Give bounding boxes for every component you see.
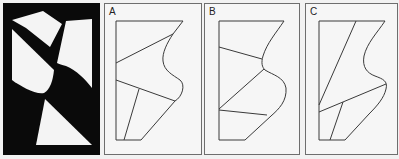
option-b-drawing <box>205 4 301 156</box>
option-a-panel[interactable]: A <box>104 3 202 155</box>
silhouette-shapes <box>3 3 100 155</box>
option-a-drawing <box>105 4 203 156</box>
option-c-drawing <box>306 4 399 156</box>
source-silhouette-panel <box>3 3 100 155</box>
option-c-panel[interactable]: C <box>305 3 398 155</box>
option-b-panel[interactable]: B <box>204 3 300 155</box>
